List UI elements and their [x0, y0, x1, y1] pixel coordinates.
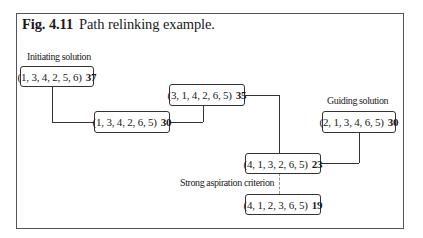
node-cost: 35 [236, 89, 247, 101]
node-cost: 19 [312, 199, 323, 211]
edge-initiating-step1-h [52, 122, 94, 123]
node-cost: 30 [161, 116, 172, 128]
node-permutation: (1, 3, 4, 2, 5, 6) [18, 71, 82, 83]
edge-initiating-step1-v [52, 86, 53, 122]
node-aspiration-solution: (4, 1, 2, 3, 6, 5)19 [245, 194, 321, 215]
figure-caption: Path relinking example. [79, 16, 215, 32]
edge-step2-step3-v [279, 95, 280, 153]
node-step-2: (3, 1, 4, 2, 6, 5)35 [169, 84, 245, 106]
node-initiating-solution: (1, 3, 4, 2, 5, 6)37 [20, 66, 94, 87]
initiating-solution-label: Initiating solution [27, 51, 91, 62]
node-cost: 37 [86, 71, 97, 83]
node-step-3: (4, 1, 3, 2, 6, 5)23 [245, 153, 321, 174]
node-permutation: (1, 3, 4, 2, 6, 5) [93, 116, 157, 128]
node-cost: 23 [312, 158, 323, 170]
edge-guiding-step3-h [321, 163, 359, 164]
node-permutation: (3, 1, 4, 2, 6, 5) [168, 89, 232, 101]
node-cost: 30 [388, 116, 399, 128]
node-permutation: (4, 1, 2, 3, 6, 5) [244, 199, 308, 211]
edge-step3-aspiration-dashed [279, 173, 280, 194]
edge-step1-step2-h [169, 122, 203, 123]
node-permutation: (4, 1, 3, 2, 6, 5) [244, 158, 308, 170]
edge-step2-step3-h [245, 95, 279, 96]
node-step-1: (1, 3, 4, 2, 6, 5)30 [94, 111, 170, 133]
node-permutation: (2, 1, 3, 4, 6, 5) [320, 116, 384, 128]
edge-guiding-step3-v [359, 133, 360, 163]
figure-label: Fig. 4.11 [22, 16, 73, 32]
node-guiding-solution: (2, 1, 3, 4, 6, 5)30 [322, 111, 396, 133]
figure-title: Fig. 4.11Path relinking example. [22, 16, 215, 33]
edge-step1-step2-v [203, 105, 204, 122]
aspiration-criterion-label: Strong aspiration criterion [180, 177, 274, 188]
guiding-solution-label: Guiding solution [327, 95, 388, 106]
